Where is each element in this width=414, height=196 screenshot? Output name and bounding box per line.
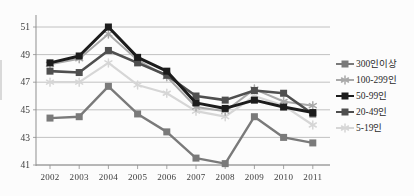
legend-label: 5-19인 xyxy=(356,120,382,136)
legend-line-square-marker-icon xyxy=(336,106,354,118)
legend-line-square-marker-icon xyxy=(336,90,354,102)
svg-text:43: 43 xyxy=(21,133,31,143)
svg-text:2003: 2003 xyxy=(70,172,89,182)
svg-text:2008: 2008 xyxy=(216,172,235,182)
legend: 300인이상 100-299인 50-99인 20-49인 5-19인 xyxy=(336,56,397,136)
svg-text:2011: 2011 xyxy=(303,172,322,182)
legend-item-5-19: 5-19인 xyxy=(336,120,397,136)
scan-edge-artifact xyxy=(0,60,2,100)
svg-text:2006: 2006 xyxy=(157,172,176,182)
svg-text:41: 41 xyxy=(21,160,31,170)
legend-line-star-marker-icon xyxy=(336,122,354,134)
legend-item-20-49: 20-49인 xyxy=(336,104,397,120)
svg-text:45: 45 xyxy=(21,105,31,115)
svg-text:47: 47 xyxy=(21,77,31,87)
svg-text:2002: 2002 xyxy=(40,172,59,182)
legend-label: 100-299인 xyxy=(356,72,397,88)
legend-label: 20-49인 xyxy=(356,104,387,120)
legend-label: 50-99인 xyxy=(356,88,387,104)
svg-text:2009: 2009 xyxy=(245,172,264,182)
scanned-line-chart-figure: 4143454749512002200320042005200620072008… xyxy=(0,0,414,196)
legend-item-100-299: 100-299인 xyxy=(336,72,397,88)
legend-item-300-and-over: 300인이상 xyxy=(336,56,397,72)
svg-text:49: 49 xyxy=(21,50,31,60)
svg-text:2005: 2005 xyxy=(128,172,147,182)
svg-text:51: 51 xyxy=(21,22,31,32)
legend-line-square-marker-icon xyxy=(336,58,354,70)
svg-text:2007: 2007 xyxy=(186,172,205,182)
legend-label: 300인이상 xyxy=(356,56,397,72)
legend-item-50-99: 50-99인 xyxy=(336,88,397,104)
legend-line-star-marker-icon xyxy=(336,74,354,86)
svg-text:2010: 2010 xyxy=(274,172,293,182)
svg-text:2004: 2004 xyxy=(99,172,118,182)
